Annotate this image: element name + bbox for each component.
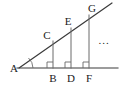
geometry-figure: A B C D E F G ... (0, 0, 119, 85)
vertex-label-f: F (86, 73, 92, 84)
right-angle-marker-f (83, 62, 89, 68)
vertex-label-d: D (67, 73, 75, 84)
continuation-ellipsis: ... (98, 35, 109, 46)
right-angle-marker-d (65, 62, 71, 68)
right-angle-marker-b (47, 62, 53, 68)
vertex-label-a: A (10, 63, 18, 74)
vertex-label-c: C (43, 30, 50, 41)
vertex-label-g: G (88, 3, 96, 14)
vertex-label-b: B (49, 73, 56, 84)
vertex-label-e: E (65, 16, 72, 27)
